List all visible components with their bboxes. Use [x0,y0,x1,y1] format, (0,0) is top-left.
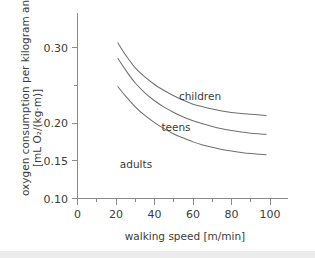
chart-svg: 0.30 0.20 0.15 0.10 0 20 40 60 80 100 wa… [0,0,315,258]
x-axis-title: walking speed [m/min] [125,230,245,242]
x-tick-label-80: 80 [225,208,239,221]
y-axis-title-line1: oxygen consumption per kilogram and mete… [19,0,31,196]
curve-label-children: children [179,90,221,102]
y-tick-label-0.10: 0.10 [44,193,69,206]
x-tick-label-60: 60 [186,208,200,221]
y-tick-label-0.30: 0.30 [44,42,69,55]
x-tick-label-100: 100 [260,208,281,221]
y-tick-label-0.20: 0.20 [44,117,69,130]
y-axis-title-line2: [mL O₂/(kg·m)] [31,89,43,167]
x-tick-label-0: 0 [74,208,81,221]
curve-label-adults: adults [120,158,152,170]
x-tick-label-40: 40 [148,208,162,221]
x-tick-label-20: 20 [109,208,123,221]
footer-band [0,251,315,258]
curve-children [118,43,266,115]
curve-label-teens: teens [161,121,190,133]
y-tick-label-0.15: 0.15 [44,155,69,168]
chart-figure: 0.30 0.20 0.15 0.10 0 20 40 60 80 100 wa… [0,0,315,258]
